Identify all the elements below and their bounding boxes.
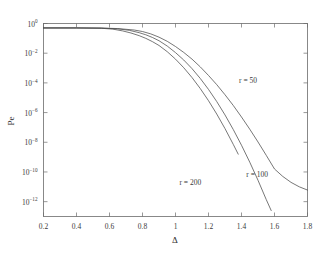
y-tick-label: 10−12 [22, 196, 38, 206]
y-tick-label: 10−6 [24, 107, 37, 117]
y-tick-label: 100 [27, 18, 38, 28]
x-tick-label: 0.2 [39, 222, 49, 231]
x-tick-label: 1.6 [270, 222, 280, 231]
x-axis-tick-labels: 0.20.40.60.811.21.41.61.8 [39, 222, 313, 231]
x-tick-label: 0.4 [72, 222, 82, 231]
curve-r-100 [44, 28, 272, 211]
x-tick-label: 0.8 [138, 222, 148, 231]
y-tick-label: 10−2 [24, 48, 37, 58]
series-label-r-100: r = 100 [246, 170, 268, 179]
series-annotations: r = 50r = 100r = 200 [179, 76, 268, 187]
x-tick-label: 0.6 [105, 222, 115, 231]
x-tick-label: 1.4 [237, 222, 247, 231]
curve-r-200 [44, 28, 239, 154]
chart-plot-area: 0.20.40.60.811.21.41.61.8 10010−210−410−… [0, 0, 324, 254]
data-curves [44, 28, 308, 211]
y-tick-label: 10−10 [22, 167, 38, 177]
chart-figure: 0.20.40.60.811.21.41.61.8 10010−210−410−… [0, 0, 324, 254]
x-tick-label: 1 [174, 222, 178, 231]
y-axis-tick-labels: 10010−210−410−610−810−1010−12 [22, 18, 38, 206]
y-axis-title: Pe [6, 116, 16, 125]
x-tick-label: 1.2 [204, 222, 214, 231]
series-label-r-50: r = 50 [239, 76, 257, 85]
y-tick-label: 10−8 [24, 137, 37, 147]
x-axis-title: Δ [172, 235, 178, 245]
y-tick-label: 10−4 [24, 78, 37, 88]
x-tick-label: 1.8 [303, 222, 313, 231]
series-label-r-200: r = 200 [179, 178, 201, 187]
